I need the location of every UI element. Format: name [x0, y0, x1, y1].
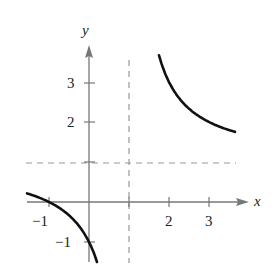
- y-axis-label: y: [80, 22, 89, 38]
- x-tick-label: 2: [165, 213, 173, 229]
- x-tick-label: −1: [32, 213, 48, 229]
- y-tick-label: 2: [67, 114, 75, 130]
- right-branch-curve: [159, 55, 235, 132]
- graph: −1 2 3 −1 2 3 x y: [0, 0, 275, 271]
- x-tick-label: 3: [205, 213, 213, 229]
- x-axis-label: x: [253, 193, 261, 209]
- y-tick-label: 3: [67, 75, 75, 91]
- y-tick-label: −1: [55, 234, 71, 250]
